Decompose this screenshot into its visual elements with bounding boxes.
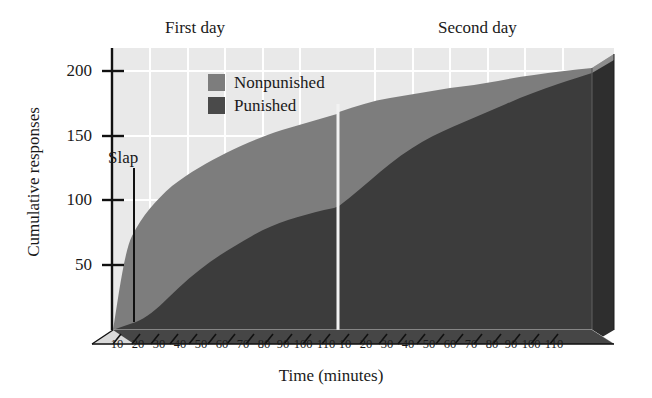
legend: Nonpunished Punished (208, 74, 325, 120)
panel-title-first-day: First day (165, 18, 225, 38)
y-tick-50: 50 (46, 255, 92, 275)
x-axis-label: Time (minutes) (231, 366, 431, 386)
legend-swatch-punished (208, 97, 225, 114)
legend-item-punished[interactable]: Punished (208, 97, 325, 114)
x-tick-day2-110: 110 (539, 337, 569, 352)
chart-3d-right-face (592, 54, 614, 343)
legend-label-punished: Punished (234, 97, 296, 114)
figure-container: First day Second day Cumulative response… (0, 0, 652, 398)
panel-title-second-day: Second day (438, 18, 517, 38)
y-axis-label: Cumulative responses (24, 82, 44, 282)
y-tick-200: 200 (46, 61, 92, 81)
legend-label-nonpunished: Nonpunished (234, 74, 325, 91)
y-tick-150: 150 (46, 126, 92, 146)
slap-annotation-label: Slap (108, 148, 138, 168)
legend-swatch-nonpunished (208, 74, 225, 91)
y-tick-100: 100 (46, 190, 92, 210)
legend-item-nonpunished[interactable]: Nonpunished (208, 74, 325, 91)
